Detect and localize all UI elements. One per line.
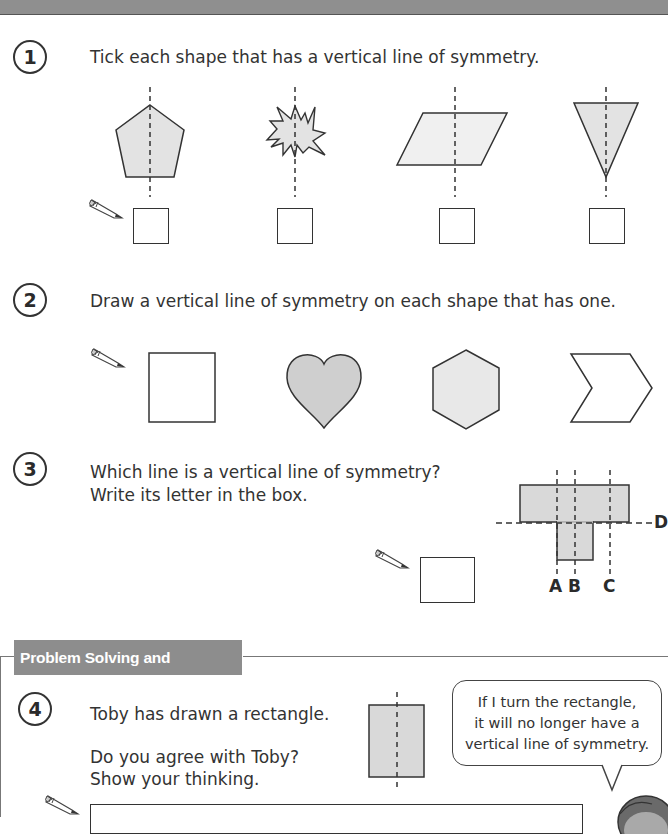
- letter-answer-box[interactable]: [420, 557, 475, 603]
- speech-bubble: If I turn the rectangle, it will no long…: [452, 680, 662, 766]
- pencil-icon: [376, 546, 412, 572]
- section-title: Problem Solving and Reasoning: [14, 640, 242, 675]
- speech-line-3: vertical line of symmetry.: [453, 734, 661, 755]
- heart-shape[interactable]: [284, 350, 364, 430]
- question-4-line1: Toby has drawn a rectangle.: [90, 703, 329, 726]
- header-bar: [0, 0, 668, 15]
- question-number-3: 3: [13, 452, 47, 486]
- tick-box-3[interactable]: [439, 208, 475, 244]
- rectangle-diagram: [368, 690, 428, 790]
- question-4-line3: Show your thinking.: [90, 768, 259, 791]
- rectangle-shape[interactable]: [148, 352, 218, 424]
- question-4-line2: Do you agree with Toby?: [90, 746, 299, 769]
- tick-box-2[interactable]: [277, 208, 313, 244]
- question-1-text: Tick each shape that has a vertical line…: [90, 46, 539, 69]
- question-3-line1: Which line is a vertical line of symmetr…: [90, 461, 441, 484]
- toby-character-avatar: [608, 792, 668, 822]
- speech-line-1: If I turn the rectangle,: [453, 692, 661, 713]
- tick-box-4[interactable]: [589, 208, 625, 244]
- pencil-icon: [46, 792, 82, 818]
- label-b: B: [568, 576, 581, 596]
- pentagon-shape: [110, 85, 210, 205]
- label-c: C: [603, 576, 615, 596]
- starburst-shape: [255, 85, 355, 205]
- hexagon-shape[interactable]: [430, 348, 502, 432]
- reasoning-answer-box[interactable]: [90, 804, 583, 834]
- label-d: D: [654, 512, 668, 532]
- question-3-line2: Write its letter in the box.: [90, 484, 308, 507]
- question-number-2: 2: [13, 283, 47, 317]
- question-number-1: 1: [13, 40, 47, 74]
- pencil-icon: [92, 345, 128, 371]
- inverted-triangle-shape: [570, 85, 650, 205]
- question-number-4: 4: [18, 692, 52, 726]
- question-2-text: Draw a vertical line of symmetry on each…: [90, 290, 616, 313]
- tick-box-1[interactable]: [133, 208, 169, 244]
- parallelogram-shape: [395, 85, 515, 205]
- section-border: [0, 656, 14, 657]
- section-border-left: [0, 656, 1, 817]
- speech-tail: [600, 764, 630, 794]
- speech-line-2: it will no longer have a: [453, 713, 661, 734]
- label-a: A: [549, 576, 562, 596]
- chevron-shape[interactable]: [570, 352, 660, 424]
- pencil-icon: [90, 196, 126, 222]
- section-divider: [243, 656, 668, 657]
